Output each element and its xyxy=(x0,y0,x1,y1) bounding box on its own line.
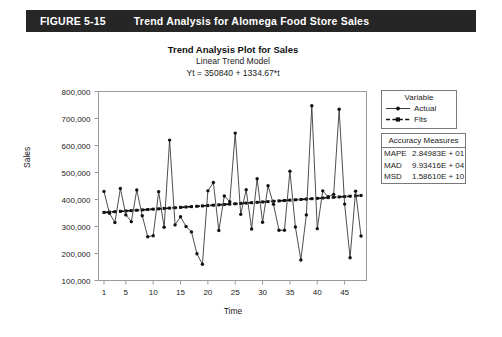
actual-point xyxy=(316,227,319,230)
actual-point xyxy=(272,203,275,206)
actual-point xyxy=(168,138,171,141)
plot-frame xyxy=(99,92,367,281)
y-tick-label: 400,000 xyxy=(62,196,91,205)
actual-point xyxy=(332,193,335,196)
fits-point xyxy=(179,206,182,209)
actual-point xyxy=(255,177,258,180)
accuracy-value-mape: 2.84983E + 01 xyxy=(412,148,465,160)
actual-point xyxy=(228,200,231,203)
fits-point xyxy=(130,209,133,212)
chart-main-title: Trend Analysis Plot for Sales xyxy=(98,44,368,56)
actual-point xyxy=(234,131,237,134)
y-tick-label: 700,000 xyxy=(62,115,91,124)
actual-point xyxy=(102,190,105,193)
accuracy-value-mad: 9.93416E + 04 xyxy=(412,160,465,172)
fits-point xyxy=(174,206,177,209)
y-tick-label: 600,000 xyxy=(62,142,91,151)
fits-point xyxy=(141,208,144,211)
actual-point xyxy=(288,169,291,172)
x-tick-label: 25 xyxy=(231,288,240,297)
chart-title-block: Trend Analysis Plot for Sales Linear Tre… xyxy=(98,44,368,79)
fits-point xyxy=(239,202,242,205)
y-tick-label: 200,000 xyxy=(62,250,91,259)
actual-point xyxy=(130,220,133,223)
fits-point xyxy=(119,210,122,213)
actual-point xyxy=(162,226,165,229)
accuracy-label-mad: MAD xyxy=(384,160,412,172)
actual-point xyxy=(201,263,204,266)
actual-point xyxy=(146,235,149,238)
actual-point xyxy=(173,223,176,226)
fits-point xyxy=(343,195,346,198)
actual-point xyxy=(348,256,351,259)
legend-header: Variable xyxy=(385,93,453,103)
actual-line xyxy=(104,106,361,264)
fits-point xyxy=(332,196,335,199)
x-tick-label: 20 xyxy=(203,288,212,297)
actual-point xyxy=(113,221,116,224)
fits-point xyxy=(327,196,330,199)
accuracy-row-mad: MAD 9.93416E + 04 xyxy=(382,160,465,172)
x-tick-label: 5 xyxy=(124,288,129,297)
fits-markers xyxy=(102,194,362,214)
solid-line-marker-icon xyxy=(385,104,411,113)
legend-label-fits: Fits xyxy=(414,115,427,125)
actual-point xyxy=(327,195,330,198)
actual-point xyxy=(108,212,111,215)
fits-point xyxy=(277,199,280,202)
accuracy-value-msd: 1.58610E + 10 xyxy=(412,171,465,183)
actual-point xyxy=(190,230,193,233)
x-tick-label: 45 xyxy=(340,288,349,297)
fits-point xyxy=(201,204,204,207)
accuracy-row-msd: MSD 1.58610E + 10 xyxy=(382,171,465,183)
actual-point xyxy=(359,234,362,237)
x-tick-label: 15 xyxy=(176,288,185,297)
actual-point xyxy=(321,189,324,192)
x-axis-title: Time xyxy=(98,306,368,316)
legend-box: Variable Actual Fits xyxy=(381,90,457,129)
fits-point xyxy=(168,207,171,210)
fits-point xyxy=(267,200,270,203)
actual-point xyxy=(217,229,220,232)
fits-point xyxy=(245,202,248,205)
x-axis-ticks: 151015202530354045 xyxy=(102,281,350,297)
x-tick-label: 1 xyxy=(102,288,107,297)
y-tick-label: 800,000 xyxy=(62,88,91,97)
accuracy-label-mape: MAPE xyxy=(384,148,412,160)
fits-point xyxy=(305,198,308,201)
figure-number: FIGURE 5-15 xyxy=(40,15,106,27)
chart-equation: Yt = 350840 + 1334.67*t xyxy=(98,68,368,80)
actual-point xyxy=(135,188,138,191)
actual-point xyxy=(310,104,313,107)
actual-point xyxy=(250,227,253,230)
fits-point xyxy=(223,203,226,206)
figure-banner: FIGURE 5-15 Trend Analysis for Alomega F… xyxy=(26,10,476,32)
fits-point xyxy=(349,195,352,198)
fits-point xyxy=(338,195,341,198)
fits-point xyxy=(256,201,259,204)
x-tick-label: 10 xyxy=(149,288,158,297)
fits-point xyxy=(288,199,291,202)
y-axis-ticks: 100,000200,000300,000400,000500,000600,0… xyxy=(62,88,99,286)
accuracy-row-mape: MAPE 2.84983E + 01 xyxy=(382,148,465,160)
actual-point xyxy=(277,229,280,232)
fits-point xyxy=(299,198,302,201)
actual-point xyxy=(337,108,340,111)
actual-point xyxy=(261,220,264,223)
y-tick-label: 300,000 xyxy=(62,223,91,232)
accuracy-label-msd: MSD xyxy=(384,171,412,183)
actual-point xyxy=(119,187,122,190)
fits-point xyxy=(283,199,286,202)
fits-point xyxy=(135,209,138,212)
fits-point xyxy=(157,207,160,210)
actual-point xyxy=(157,190,160,193)
fits-point xyxy=(217,203,220,206)
y-axis-title: Sales xyxy=(22,147,32,168)
fits-point xyxy=(102,211,105,214)
fits-point xyxy=(146,208,149,211)
actual-point xyxy=(179,215,182,218)
fits-point xyxy=(190,205,193,208)
fits-point xyxy=(108,211,111,214)
accuracy-measures-box: Accuracy Measures MAPE 2.84983E + 01 MAD… xyxy=(381,133,466,184)
fits-point xyxy=(316,197,319,200)
